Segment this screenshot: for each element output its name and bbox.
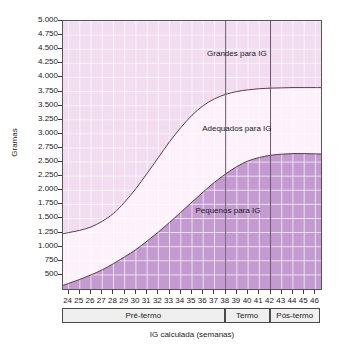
x-tick-mark: [112, 290, 113, 294]
annotation-pequenos: Pequenos para IG: [195, 206, 260, 215]
x-tick-mark: [68, 290, 69, 294]
x-tick-mark: [303, 290, 304, 294]
x-tick-mark: [124, 290, 125, 294]
x-tick-mark: [79, 290, 80, 294]
x-tick-mark: [292, 290, 293, 294]
y-tick-label: 3.250: [24, 115, 58, 123]
y-tick-label: 3.750: [24, 87, 58, 95]
y-tick-label: 4.000: [24, 72, 58, 80]
y-tick-label: 2.250: [24, 171, 58, 179]
x-tick-mark: [101, 290, 102, 294]
y-tick-label: 750: [24, 256, 58, 264]
y-tick-label: 2.500: [24, 157, 58, 165]
annotation-grandes: Grandes para IG: [207, 49, 267, 58]
y-tick-label: 2.750: [24, 143, 58, 151]
x-tick-mark: [202, 290, 203, 294]
chart-canvas: [63, 21, 321, 289]
y-tick-label: 2.000: [24, 185, 58, 193]
zone-label: Pós-termo: [276, 311, 313, 320]
x-tick-mark: [213, 290, 214, 294]
y-tick-label: 1.750: [24, 199, 58, 207]
y-tick-label: 1.000: [24, 242, 58, 250]
x-tick-label: 46: [306, 296, 322, 305]
zone-termo: Termo: [225, 308, 270, 323]
y-axis-title: Gramas: [10, 113, 19, 173]
plot-area: Grandes para IG Adequados para IG Pequen…: [62, 20, 322, 290]
x-tick-mark: [225, 290, 226, 294]
y-tick-label: 3.500: [24, 101, 58, 109]
x-tick-mark: [135, 290, 136, 294]
annotation-adequados: Adequados para IG: [202, 124, 271, 133]
zone-label: Termo: [236, 311, 258, 320]
x-tick-mark: [191, 290, 192, 294]
x-axis-title: IG calculada (semanas): [62, 330, 322, 339]
y-tick-label: 4.750: [24, 30, 58, 38]
y-axis-tick-labels: 5.0004.7504.5004.2504.0003.7503.5003.250…: [20, 0, 58, 348]
x-tick-mark: [314, 290, 315, 294]
y-tick-label: 4.250: [24, 58, 58, 66]
x-tick-mark: [236, 290, 237, 294]
x-tick-mark: [146, 290, 147, 294]
x-tick-mark: [157, 290, 158, 294]
y-tick-label: 4.500: [24, 44, 58, 52]
zone-pr-termo: Pré-termo: [62, 308, 225, 323]
y-tick-label: 5.000: [24, 16, 58, 24]
zone-label: Pré-termo: [126, 311, 162, 320]
gestational-zone-bar: Pré-termoTermoPós-termo: [62, 308, 322, 323]
x-tick-mark: [180, 290, 181, 294]
x-tick-mark: [270, 290, 271, 294]
x-tick-mark: [281, 290, 282, 294]
y-tick-label: 1.250: [24, 228, 58, 236]
x-tick-mark: [90, 290, 91, 294]
y-tick-label: 1.500: [24, 213, 58, 221]
y-tick-label: 3.000: [24, 129, 58, 137]
x-tick-mark: [247, 290, 248, 294]
zone-p-s-termo: Pós-termo: [270, 308, 320, 323]
x-tick-mark: [258, 290, 259, 294]
chart-page: Gramas 5.0004.7504.5004.2504.0003.7503.5…: [0, 0, 339, 348]
y-tick-label: 500: [24, 270, 58, 278]
x-tick-mark: [169, 290, 170, 294]
